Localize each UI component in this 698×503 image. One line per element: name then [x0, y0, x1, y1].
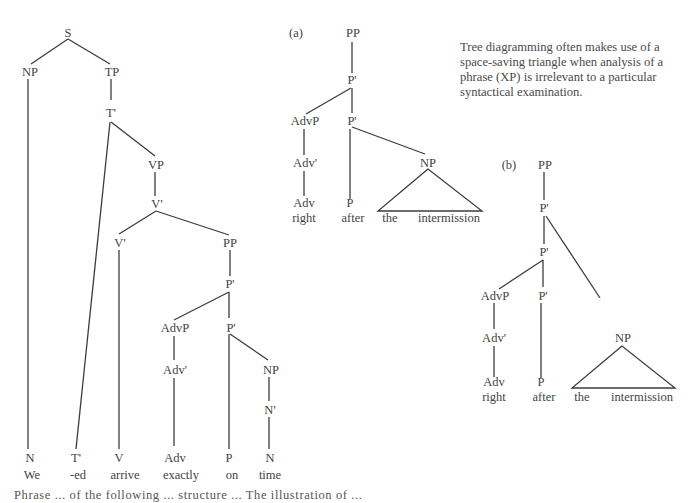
leaf-word: We — [24, 468, 41, 482]
leaf-word: -ed — [70, 468, 87, 482]
leaf-cat: N — [265, 451, 274, 465]
node-AdvP: AdvP — [291, 114, 320, 128]
leaf-word: arrive — [110, 468, 140, 482]
leaf-cat: N — [25, 451, 34, 465]
tree-b-label: (b) — [502, 158, 517, 172]
tree-a: (a) PP P' AdvP P' Adv' NP Adv P right af… — [289, 26, 482, 225]
note-line: Tree diagramming often makes use of a — [460, 40, 698, 55]
node-PP: PP — [538, 158, 552, 172]
node-Adv-bar: Adv' — [293, 156, 317, 170]
triangle-word: the — [574, 390, 590, 404]
note-line: phrase (XP) is irrelevant to a particula… — [460, 70, 698, 85]
note-line: space-saving triangle when analysis of a — [460, 55, 698, 70]
main-tree: S NP TP T' VP V' V' PP P' AdvP P' Adv' N… — [22, 26, 282, 482]
node-P-bar: P' — [347, 114, 356, 128]
leaf-cat: Adv — [293, 196, 315, 210]
leaf-cat: T' — [71, 451, 81, 465]
node-NP: NP — [420, 156, 436, 170]
leaf-cat: Adv — [164, 451, 186, 465]
explanatory-note: Tree diagramming often makes use of a sp… — [460, 40, 698, 100]
node-NP-object: NP — [263, 363, 279, 377]
node-S: S — [65, 26, 72, 40]
node-P-bar-top: P' — [225, 277, 234, 291]
note-line: syntactical examination. — [460, 85, 698, 100]
node-V-bar-top: V' — [151, 197, 162, 211]
leaf-cat: P — [226, 451, 233, 465]
node-T-bar: T' — [106, 106, 116, 120]
node-Adv-bar: Adv' — [482, 331, 506, 345]
leaf-word: after — [342, 211, 366, 225]
leaf-cat: P — [347, 196, 354, 210]
node-P-bar-top: P' — [347, 73, 356, 87]
triangle-word: intermission — [611, 390, 674, 404]
leaf-cat: P — [538, 375, 545, 389]
node-AdvP: AdvP — [481, 289, 510, 303]
node-Adv-bar: Adv' — [163, 363, 187, 377]
figure-caption-partial: Phrase ... of the following ... structur… — [14, 488, 362, 503]
tree-b: (b) PP P' P' AdvP P' Adv' NP Adv P right… — [481, 158, 675, 404]
leaf-word: right — [482, 390, 506, 404]
node-P-bar: P' — [226, 321, 235, 335]
node-VP: VP — [148, 158, 164, 172]
node-P-bar: P' — [538, 289, 547, 303]
leaf-word: exactly — [163, 468, 200, 482]
leaf-word: on — [226, 468, 239, 482]
leaf-cat: Adv — [483, 375, 505, 389]
node-N-bar: N' — [264, 403, 275, 417]
node-AdvP: AdvP — [161, 321, 190, 335]
triangle-word: the — [382, 211, 398, 225]
leaf-word: after — [533, 390, 557, 404]
leaf-cat: V — [114, 451, 123, 465]
node-PP: PP — [223, 236, 237, 250]
node-NP: NP — [22, 65, 38, 79]
node-P-bar-mid: P' — [539, 245, 548, 259]
tree-a-label: (a) — [289, 26, 303, 40]
node-V-bar: V' — [114, 236, 125, 250]
node-TP: TP — [105, 65, 120, 79]
leaf-word: right — [292, 211, 316, 225]
node-PP: PP — [346, 26, 360, 40]
triangle-word: intermission — [418, 211, 481, 225]
node-P-bar-top: P' — [539, 201, 548, 215]
leaf-word: time — [259, 468, 282, 482]
node-NP: NP — [615, 331, 631, 345]
